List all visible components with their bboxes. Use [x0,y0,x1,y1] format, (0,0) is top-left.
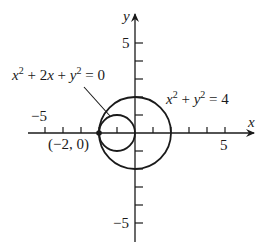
point-label: (−2, 0) [48,136,89,153]
x-tick-label-neg5: −5 [31,108,47,124]
equation-large-circle: x2 + y2 = 4 [165,89,229,107]
y-tick-label-5: 5 [122,35,130,51]
leader-line [84,87,110,116]
x-tick-label-5: 5 [220,137,228,153]
x-axis-label: x [247,114,255,130]
point-marker [96,130,102,136]
y-axis-label: y [121,8,130,24]
equation-small-circle: x2 + 2x + y2 = 0 [11,65,105,83]
circle-diagram: y x 5 −5 −5 5 (−2, 0) x2 + 2x + y2 = 0 x… [0,0,261,246]
y-tick-label-neg5: −5 [113,215,129,231]
